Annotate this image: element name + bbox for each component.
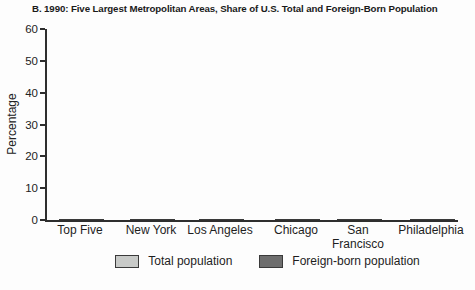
x-label-new-york: New York <box>115 224 187 238</box>
bar-total-population-san-francisco <box>337 219 360 220</box>
legend-label-foreign-born-population: Foreign-born population <box>292 254 419 268</box>
bar-foreign-born-population-new-york <box>152 219 175 220</box>
bar-group-new-york <box>130 219 175 220</box>
legend-item-foreign-born-population: Foreign-born population <box>259 254 419 268</box>
y-tick-30 <box>40 124 45 126</box>
y-axis-label: Percentage <box>5 93 19 154</box>
x-label-top-five: Top Five <box>44 224 116 238</box>
plot-area: 0102030405060 <box>45 29 458 222</box>
bar-total-population-chicago <box>275 219 298 220</box>
x-label-san-francisco: San Francisco <box>322 224 394 252</box>
bar-total-population-los-angeles <box>199 219 222 220</box>
y-tick-20 <box>40 155 45 157</box>
y-tick-label-40: 40 <box>25 87 38 99</box>
bar-group-san-francisco <box>337 219 382 220</box>
bar-total-population-philadelphia <box>410 219 433 220</box>
chart-title: B. 1990: Five Largest Metropolitan Areas… <box>32 3 472 14</box>
y-tick-60 <box>40 28 45 30</box>
y-tick-40 <box>40 92 45 94</box>
legend-swatch-total-population <box>115 255 139 268</box>
legend-item-total-population: Total population <box>115 254 232 268</box>
bar-foreign-born-population-san-francisco <box>359 219 382 220</box>
y-tick-label-50: 50 <box>25 55 38 67</box>
legend-label-total-population: Total population <box>148 254 232 268</box>
bar-foreign-born-population-philadelphia <box>432 219 455 220</box>
legend-swatch-foreign-born-population <box>259 255 283 268</box>
bar-group-philadelphia <box>410 219 455 220</box>
x-label-philadelphia: Philadelphia <box>395 224 467 238</box>
y-tick-label-10: 10 <box>25 182 38 194</box>
bar-total-population-top-five <box>59 219 82 220</box>
y-tick-10 <box>40 187 45 189</box>
x-label-los-angeles: Los Angeles <box>184 224 256 238</box>
bar-group-los-angeles <box>199 219 244 220</box>
bar-chart-panel: B. 1990: Five Largest Metropolitan Areas… <box>0 0 475 290</box>
y-tick-0 <box>40 219 45 221</box>
bar-foreign-born-population-top-five <box>81 219 104 220</box>
bar-group-chicago <box>275 219 320 220</box>
bar-foreign-born-population-chicago <box>297 219 320 220</box>
y-tick-label-0: 0 <box>32 214 38 226</box>
y-tick-label-20: 20 <box>25 150 38 162</box>
y-tick-label-30: 30 <box>25 119 38 131</box>
y-tick-50 <box>40 60 45 62</box>
bar-group-top-five <box>59 219 104 220</box>
y-tick-label-60: 60 <box>25 23 38 35</box>
bar-total-population-new-york <box>130 219 153 220</box>
bar-foreign-born-population-los-angeles <box>221 219 244 220</box>
chart-legend: Total populationForeign-born population <box>45 254 456 268</box>
